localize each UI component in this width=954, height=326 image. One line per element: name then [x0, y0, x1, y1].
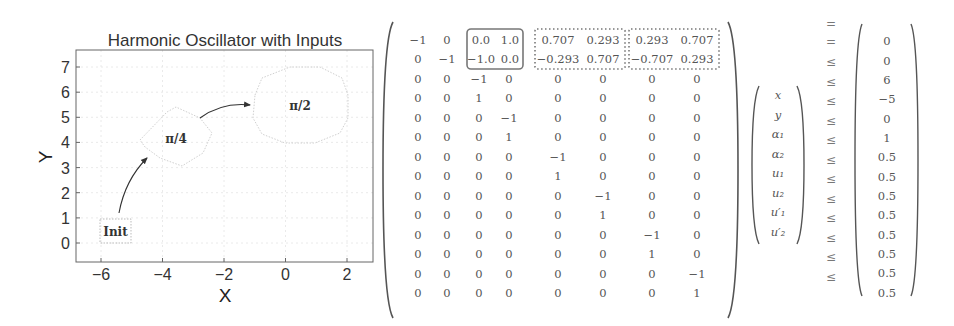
matrix-cell: 0 [554, 286, 561, 300]
figure: Harmonic Oscillator with Inputs [0, 0, 954, 326]
matrix-cell: 1.0 [501, 33, 519, 47]
matrix-cell: 0 [443, 33, 450, 47]
matrix-cell: 0 [443, 267, 450, 281]
matrix-cell: 0 [505, 247, 512, 261]
variable: u₂ [772, 186, 784, 200]
matrix-cell: 0 [693, 228, 700, 242]
relation-symbol: = [826, 35, 836, 49]
matrix-cell: 0 [475, 189, 482, 203]
relation-symbol: ≤ [826, 55, 836, 69]
matrix-cell: 0 [648, 91, 655, 105]
rhs-left-paren [855, 24, 862, 296]
constraint-matrix: −1 0 0.0 1.0 0.707 0.293 0.293 0.707 0 −… [383, 22, 738, 318]
rhs-value: 1 [883, 131, 890, 145]
matrix-cell: 0 [599, 72, 606, 86]
rhs-value: 0.5 [878, 208, 896, 222]
matrix-cell: 0 [443, 228, 450, 242]
matrix-cell: 0 [599, 247, 606, 261]
y-tick: 6 [61, 84, 70, 101]
matrix-cell: 0 [475, 111, 482, 125]
matrix-cell: 0 [505, 228, 512, 242]
matrix-cell: 0 [475, 228, 482, 242]
variable: x [775, 88, 782, 102]
matrix-cell: 0.0 [501, 52, 519, 66]
matrix-cell: 0 [693, 189, 700, 203]
matrix-cell: 0 [554, 111, 561, 125]
matrix-cell: 0.707 [681, 33, 714, 47]
matrix-cell: 0 [475, 267, 482, 281]
matrix-cell: 1 [554, 169, 561, 183]
matrix-cell: 0 [648, 150, 655, 164]
matrix-cell: 1 [475, 91, 482, 105]
matrix-cell: 0 [505, 189, 512, 203]
rhs-value: 0.5 [878, 286, 896, 300]
matrix-cell: 0 [443, 91, 450, 105]
matrix-cell: 0 [505, 267, 512, 281]
matrix-right-paren [728, 22, 738, 318]
matrix-cell: −1 [595, 189, 612, 203]
relation-symbol: ≤ [826, 192, 836, 206]
variable: α₂ [772, 147, 785, 161]
variable-left-paren [752, 86, 759, 244]
matrix-cell: 0 [599, 169, 606, 183]
matrix-cell: 0 [414, 150, 421, 164]
matrix-cell: 0 [414, 130, 421, 144]
matrix-cell: 0 [505, 169, 512, 183]
matrix-cell: 0 [648, 286, 655, 300]
matrix-cell: 0.707 [542, 33, 575, 47]
x-tick-labels: −6 −4 −2 0 2 [92, 266, 352, 283]
variable-right-paren [797, 86, 804, 244]
x-tick: 0 [281, 266, 290, 283]
matrix-cell: 0 [443, 286, 450, 300]
matrix-cell: −1 [410, 33, 427, 47]
matrix-cell: 0 [599, 150, 606, 164]
matrix-cell: 0 [475, 286, 482, 300]
matrix-cell: 0 [693, 130, 700, 144]
matrix-cell: −1 [439, 52, 456, 66]
variable: α₁ [772, 127, 784, 141]
matrix-cell: 0 [443, 169, 450, 183]
relation-symbol: ≤ [826, 270, 836, 284]
matrix-cell: 0 [599, 91, 606, 105]
matrix-cell: 0 [648, 72, 655, 86]
relation-symbol: ≤ [826, 133, 836, 147]
variable: u₁ [772, 166, 784, 180]
matrix-left-paren [383, 22, 393, 318]
matrix-cell: 0.293 [587, 33, 620, 47]
matrix-cell: 0 [475, 130, 482, 144]
matrix-cell: 0 [414, 111, 421, 125]
rhs-value: 0 [883, 34, 890, 48]
matrix-cell: 0 [414, 169, 421, 183]
x-axis-label: X [219, 285, 232, 306]
plot-title: Harmonic Oscillator with Inputs [108, 31, 342, 50]
relation-symbol: ≤ [826, 172, 836, 186]
matrix-cell: −1 [501, 111, 518, 125]
matrix-cell: 0 [443, 150, 450, 164]
matrix-cell: 0 [443, 111, 450, 125]
matrix-cell: 0 [554, 72, 561, 86]
oscillator-plot: Harmonic Oscillator with Inputs [35, 31, 373, 306]
matrix-cell: 0 [554, 208, 561, 222]
relation-symbol: ≤ [826, 114, 836, 128]
matrix-cell: 0 [648, 208, 655, 222]
init-label: Init [103, 225, 128, 239]
rhs-value: 0.5 [878, 247, 896, 261]
matrix-cell: 0 [554, 130, 561, 144]
y-tick: 5 [61, 109, 70, 126]
matrix-cell: 0 [693, 111, 700, 125]
y-tick: 3 [61, 160, 70, 177]
x-tick: −2 [215, 266, 233, 283]
matrix-cell: 0 [443, 247, 450, 261]
matrix-cell: −1 [550, 150, 567, 164]
matrix-cell: −0.293 [537, 52, 580, 66]
rhs-value: 0 [883, 54, 890, 68]
matrix-cell: 0 [554, 247, 561, 261]
rhs-value: 0 [883, 112, 890, 126]
matrix-cell: 0 [475, 150, 482, 164]
matrix-cell: 0 [505, 72, 512, 86]
matrix-cell: −0.707 [631, 52, 674, 66]
matrix-cell: 0 [505, 91, 512, 105]
matrix-cell: 0 [599, 111, 606, 125]
y-axis-label: Y [35, 150, 56, 163]
matrix-cell: −1 [644, 228, 661, 242]
